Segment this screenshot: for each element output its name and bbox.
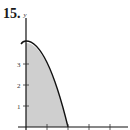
area-chart: 1 2 3 y (0, 0, 130, 130)
shaded-region (26, 43, 68, 127)
y-axis-label: y (23, 11, 28, 19)
y-tick-label-1: 1 (17, 103, 21, 111)
y-tick-label-3: 3 (17, 61, 21, 69)
y-tick-label-2: 2 (17, 82, 21, 90)
